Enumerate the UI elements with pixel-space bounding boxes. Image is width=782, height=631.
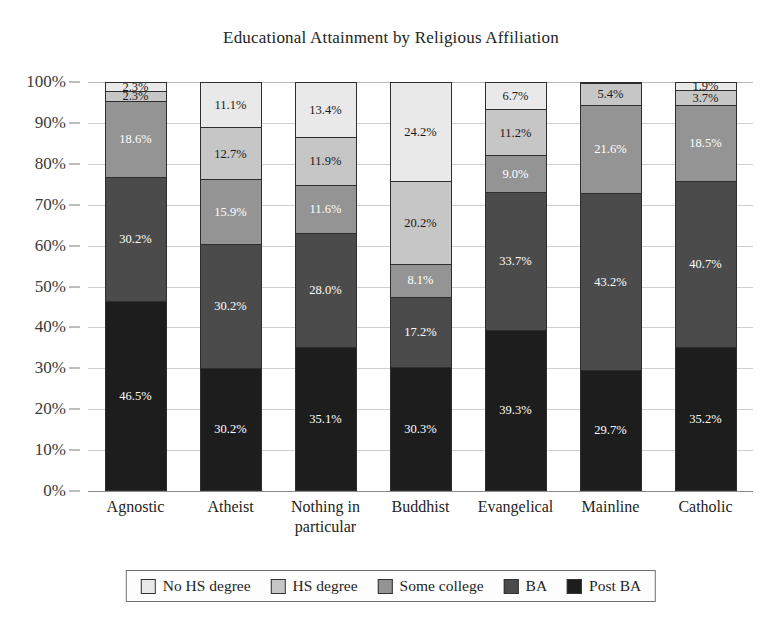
bar-segment[interactable]: 43.2% [580, 193, 642, 369]
bar-segment[interactable]: 11.6% [295, 185, 357, 232]
y-axis-tick-mark [69, 122, 80, 123]
bar-column: 24.2%20.2%8.1%17.2%30.3% [373, 82, 468, 491]
legend-item-no-hs-degree[interactable]: No HS degree [141, 577, 251, 595]
bar-segment[interactable]: 46.5% [105, 301, 167, 491]
bar-segment[interactable]: 8.1% [390, 264, 452, 297]
bar-segment-label: 11.6% [310, 203, 342, 216]
x-axis-category-mainline: Mainline [563, 497, 658, 537]
bar-segment[interactable]: 30.2% [105, 177, 167, 301]
stacked-bar[interactable]: 2.3%2.3%18.6%30.2%46.5% [105, 82, 167, 491]
y-axis-tick-label: 30% [35, 358, 66, 378]
bar-segment[interactable]: 17.2% [390, 297, 452, 367]
bar-segment[interactable]: 29.7% [580, 370, 642, 491]
bar-segment-label: 30.2% [119, 233, 151, 246]
bar-column: 5.4%21.6%43.2%29.7% [563, 82, 658, 491]
bar-segment[interactable]: 33.7% [485, 192, 547, 330]
bar-segment-label: 33.7% [499, 255, 531, 268]
bar-segment-label: 35.2% [689, 413, 721, 426]
bar-segment-label: 12.7% [214, 148, 246, 161]
bar-segment[interactable]: 2.3% [105, 82, 167, 91]
bar-segment[interactable]: 30.2% [200, 368, 262, 491]
bar-segment-label: 8.1% [407, 274, 433, 287]
y-axis-tick-label: 20% [35, 399, 66, 419]
legend-swatch-icon [271, 579, 286, 594]
bar-segment[interactable]: 6.7% [485, 82, 547, 109]
bar-segment-label: 35.1% [309, 413, 341, 426]
bar-segment[interactable]: 2.3% [105, 91, 167, 100]
legend-swatch-icon [567, 579, 582, 594]
bar-segment[interactable]: 11.1% [200, 82, 262, 127]
bar-segment-label: 3.7% [692, 92, 718, 105]
y-axis: 100%90%80%70%60%50%40%30%20%10%0% [0, 82, 80, 491]
bar-segment[interactable]: 11.9% [295, 137, 357, 186]
bar-segment[interactable]: 30.3% [390, 367, 452, 491]
bar-segment[interactable]: 35.1% [295, 347, 357, 491]
y-axis-tick-label: 60% [35, 236, 66, 256]
legend-item-post-ba[interactable]: Post BA [567, 577, 641, 595]
bar-segment-label: 5.4% [597, 88, 623, 101]
bar-segment[interactable]: 18.5% [675, 105, 737, 181]
legend-item-some-college[interactable]: Some college [378, 577, 484, 595]
legend-swatch-icon [141, 579, 156, 594]
bar-segment[interactable]: 28.0% [295, 233, 357, 348]
bar-segment[interactable]: 18.6% [105, 101, 167, 177]
bar-segment[interactable]: 3.7% [675, 90, 737, 105]
stacked-bar[interactable]: 5.4%21.6%43.2%29.7% [580, 82, 642, 491]
bar-segment-label: 43.2% [594, 276, 626, 289]
stacked-bar[interactable]: 13.4%11.9%11.6%28.0%35.1% [295, 82, 357, 491]
stacked-bar[interactable]: 1.9%3.7%18.5%40.7%35.2% [675, 82, 737, 491]
stacked-bar[interactable]: 6.7%11.2%9.0%33.7%39.3% [485, 82, 547, 491]
bar-segment[interactable]: 24.2% [390, 82, 452, 181]
bar-segment[interactable]: 5.4% [580, 83, 642, 105]
x-axis-label-line: Nothing in [278, 497, 373, 517]
x-axis-label-line: Buddhist [373, 497, 468, 517]
legend-item-hs-degree[interactable]: HS degree [271, 577, 358, 595]
legend-label: HS degree [293, 577, 358, 595]
bar-segment-label: 15.9% [214, 206, 246, 219]
bar-segment-label: 30.3% [404, 423, 436, 436]
bar-segment[interactable]: 30.2% [200, 244, 262, 367]
legend-label: BA [526, 577, 548, 595]
x-axis-category-buddhist: Buddhist [373, 497, 468, 537]
bar-segment-label: 30.2% [214, 300, 246, 313]
y-axis-tick-mark [69, 327, 80, 328]
bar-segment[interactable]: 12.7% [200, 127, 262, 179]
bar-segment[interactable]: 1.9% [675, 82, 737, 90]
stacked-bar[interactable]: 24.2%20.2%8.1%17.2%30.3% [390, 82, 452, 491]
x-axis-label-line: Evangelical [468, 497, 563, 517]
x-axis-label-line: Mainline [563, 497, 658, 517]
bar-segment[interactable]: 40.7% [675, 181, 737, 347]
bar-segment-label: 9.0% [502, 168, 528, 181]
chart-title: Educational Attainment by Religious Affi… [0, 28, 782, 48]
stacked-bar[interactable]: 11.1%12.7%15.9%30.2%30.2% [200, 82, 262, 491]
x-axis-category-nothing-in-particular: Nothing inparticular [278, 497, 373, 537]
x-axis-category-agnostic: Agnostic [88, 497, 183, 537]
bar-segment-label: 40.7% [689, 258, 721, 271]
y-axis-tick-label: 80% [35, 154, 66, 174]
bar-segment[interactable]: 15.9% [200, 179, 262, 244]
bar-segment[interactable]: 21.6% [580, 105, 642, 193]
bar-segment[interactable]: 11.2% [485, 109, 547, 155]
x-axis-category-catholic: Catholic [658, 497, 753, 537]
legend-label: Post BA [589, 577, 641, 595]
bar-segment[interactable]: 39.3% [485, 330, 547, 491]
legend-swatch-icon [504, 579, 519, 594]
bar-column: 6.7%11.2%9.0%33.7%39.3% [468, 82, 563, 491]
legend-item-ba[interactable]: BA [504, 577, 548, 595]
y-axis-tick-label: 90% [35, 113, 66, 133]
bar-segment[interactable]: 9.0% [485, 155, 547, 192]
bar-segment[interactable]: 20.2% [390, 181, 452, 264]
bar-segment[interactable]: 13.4% [295, 82, 357, 137]
bar-segment-label: 11.2% [500, 127, 532, 140]
y-axis-tick-label: 100% [26, 72, 66, 92]
bar-segment-label: 21.6% [594, 143, 626, 156]
bar-segment-label: 20.2% [404, 217, 436, 230]
bar-segment-label: 18.5% [689, 137, 721, 150]
bar-segment-label: 30.2% [214, 423, 246, 436]
y-axis-tick-mark [69, 204, 80, 205]
gridline [88, 491, 753, 492]
y-axis-tick-label: 0% [43, 481, 66, 501]
bar-segment[interactable]: 35.2% [675, 347, 737, 491]
bar-segment-label: 11.9% [310, 155, 342, 168]
x-axis-category-atheist: Atheist [183, 497, 278, 537]
